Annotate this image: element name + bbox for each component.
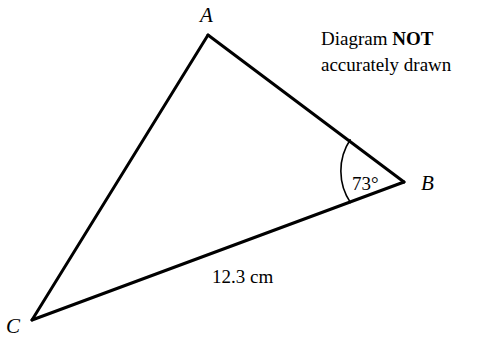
geometry-diagram: 73° 12.3 cm A B C Diagram NOT accurately… [0,0,489,342]
note-line-1: Diagram NOT [321,26,451,52]
not-to-scale-note: Diagram NOT accurately drawn [321,26,451,78]
note-line-1-prefix: Diagram [321,28,392,49]
vertex-label-c: C [6,314,21,338]
angle-label-b: 73° [352,173,379,194]
note-line-2: accurately drawn [321,52,451,78]
side-length-label-bc: 12.3 cm [212,266,273,287]
vertex-label-b: B [421,171,434,195]
side-bc [32,182,404,320]
note-emphasis-not: NOT [392,28,433,49]
side-ca [32,35,208,320]
vertex-label-a: A [198,3,213,27]
angle-arc-b [341,139,351,203]
